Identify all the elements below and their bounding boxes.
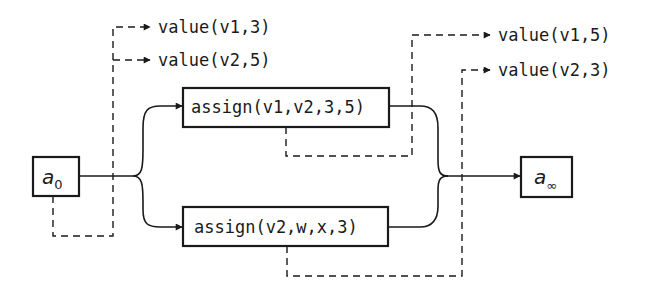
initial-state-base: a (42, 165, 54, 189)
final-state-base: a (534, 165, 546, 189)
dashed-link-a0-observations (53, 27, 150, 236)
flow-to-assign2 (133, 176, 182, 227)
action-node-assign-v2-w: assign(v2,w,x,3) (183, 207, 388, 246)
observation-value-v2-5: value(v2,5) (158, 50, 271, 70)
final-state-node: a∞ (521, 157, 572, 197)
observation-value-v1-5: value(v1,5) (498, 25, 611, 45)
plan-diagram: a0 assign(v1,v2,3,5) assign(v2,w,x,3) a∞… (0, 0, 653, 298)
initial-state-subscript: 0 (54, 177, 62, 192)
flow-to-assign1 (133, 106, 182, 176)
action-label: assign(v2,w,x,3) (194, 217, 358, 237)
final-state-subscript: ∞ (546, 178, 557, 193)
action-node-assign-v1-v2: assign(v1,v2,3,5) (183, 88, 389, 127)
flow-from-assign2 (388, 176, 448, 227)
action-label: assign(v1,v2,3,5) (191, 97, 365, 117)
initial-state-node: a0 (33, 157, 79, 196)
flow-from-assign1 (389, 106, 448, 176)
observation-value-v1-3: value(v1,3) (158, 17, 271, 37)
observation-value-v2-3: value(v2,3) (498, 60, 611, 80)
